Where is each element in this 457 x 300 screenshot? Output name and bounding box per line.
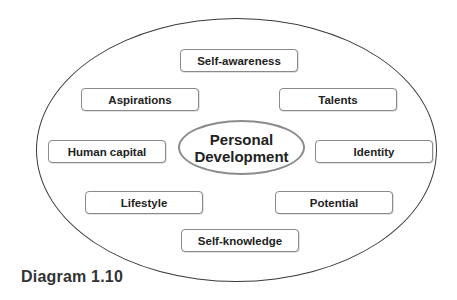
node-aspirations: Aspirations — [81, 88, 199, 111]
center-label-line1: Personal — [210, 131, 273, 148]
node-label: Self-awareness — [197, 55, 281, 67]
node-label: Talents — [318, 94, 357, 106]
node-label: Aspirations — [108, 94, 171, 106]
node-identity: Identity — [315, 140, 433, 163]
node-label: Self-knowledge — [198, 235, 282, 247]
node-self-awareness: Self-awareness — [180, 49, 298, 72]
node-label: Potential — [310, 197, 359, 209]
center-node-personal-development: Personal Development — [178, 120, 305, 175]
diagram-caption: Diagram 1.10 — [21, 268, 123, 286]
center-label-line2: Development — [194, 148, 288, 165]
node-talents: Talents — [279, 88, 397, 111]
node-label: Lifestyle — [121, 197, 168, 209]
node-label: Identity — [354, 146, 395, 158]
node-label: Human capital — [68, 146, 147, 158]
node-self-knowledge: Self-knowledge — [181, 229, 299, 252]
node-lifestyle: Lifestyle — [85, 191, 203, 214]
node-human-capital: Human capital — [48, 140, 166, 163]
node-potential: Potential — [275, 191, 393, 214]
